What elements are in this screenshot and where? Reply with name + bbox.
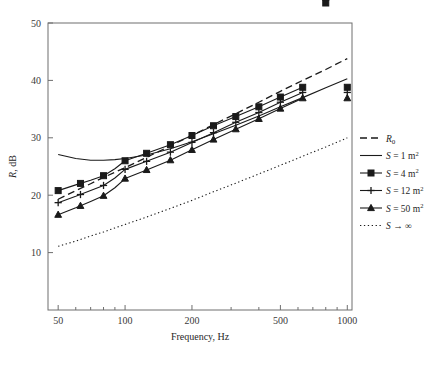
legend-marker-S4 — [368, 170, 374, 176]
series-marker-2 — [122, 158, 128, 164]
y-tick-label: 50 — [31, 18, 41, 29]
legend-label-Sinf: S → ∞ — [386, 221, 412, 231]
x-tick-label: 200 — [184, 315, 199, 326]
line-chart-svg: 5010020050010001020304050Frequency, HzR,… — [0, 0, 436, 368]
chart-figure: 5010020050010001020304050Frequency, HzR,… — [0, 0, 436, 368]
y-tick-label: 40 — [31, 75, 41, 86]
series-marker-2 — [210, 123, 216, 129]
series-marker-2 — [101, 173, 107, 179]
series-marker-2 — [323, 0, 329, 6]
series-marker-2 — [167, 142, 173, 148]
series-marker-2 — [77, 180, 83, 186]
x-axis-title: Frequency, Hz — [171, 331, 230, 342]
x-tick-label: 100 — [118, 315, 133, 326]
series-marker-2 — [256, 104, 262, 110]
y-tick-label: 20 — [31, 190, 41, 201]
series-marker-2 — [233, 114, 239, 120]
x-tick-label: 1000 — [337, 315, 357, 326]
legend-label-S4: S = 4 m2 — [386, 167, 419, 179]
legend-label-S12: S = 12 m2 — [386, 185, 423, 197]
series-marker-2 — [55, 188, 61, 194]
y-tick-label: 10 — [31, 247, 41, 258]
x-tick-label: 50 — [53, 315, 63, 326]
legend-label-S1: S = 1 m2 — [386, 150, 419, 162]
y-tick-label: 30 — [31, 132, 41, 143]
y-axis-title: R, dB — [7, 155, 18, 179]
legend-label-R0: R0 — [385, 134, 396, 147]
series-marker-2 — [144, 150, 150, 156]
series-marker-2 — [189, 133, 195, 139]
x-tick-label: 500 — [273, 315, 288, 326]
legend-label-S50: S = 50 m2 — [386, 202, 423, 214]
plot-frame — [48, 23, 352, 310]
